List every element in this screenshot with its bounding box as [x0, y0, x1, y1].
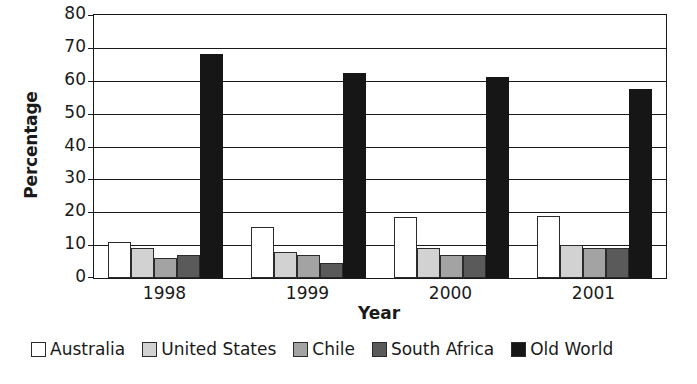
bar — [297, 255, 320, 278]
bar — [606, 248, 629, 278]
y-axis-tick-labels: 80706050403020100 — [28, 0, 86, 290]
legend-label: Old World — [530, 341, 613, 358]
legend-swatch-icon — [142, 342, 157, 357]
x-axis-tick-label: 2001 — [554, 282, 634, 304]
plot-area — [93, 14, 667, 279]
legend: AustraliaUnited StatesChileSouth AfricaO… — [31, 341, 630, 358]
bar — [108, 242, 131, 278]
x-axis-tick-label: 2000 — [411, 282, 491, 304]
bar — [320, 263, 343, 278]
legend-item: Old World — [511, 341, 613, 358]
y-axis-tick-label: 50 — [28, 104, 86, 121]
bar — [177, 255, 200, 278]
bars-layer — [94, 15, 666, 278]
legend-item: Chile — [293, 341, 355, 358]
legend-swatch-icon — [511, 342, 526, 357]
bar — [537, 216, 560, 278]
bar — [394, 217, 417, 278]
bar — [560, 245, 583, 278]
legend-item: South Africa — [372, 341, 494, 358]
legend-label: United States — [161, 341, 276, 358]
legend-label: Chile — [312, 341, 355, 358]
bar — [440, 255, 463, 278]
y-axis-tick-label: 70 — [28, 38, 86, 55]
legend-item: Australia — [31, 341, 125, 358]
legend-label: Australia — [50, 341, 125, 358]
bar — [343, 73, 366, 278]
y-axis-tick-label: 30 — [28, 169, 86, 186]
bar — [154, 258, 177, 278]
bar — [274, 252, 297, 278]
bar-chart-figure: Percentage 80706050403020100 19981999200… — [0, 0, 697, 384]
bar — [463, 255, 486, 278]
legend-label: South Africa — [391, 341, 494, 358]
bar — [131, 248, 154, 278]
y-axis-tick-label: 20 — [28, 202, 86, 219]
y-axis-tick-label: 80 — [28, 5, 86, 22]
bar — [629, 89, 652, 278]
bar — [251, 227, 274, 278]
legend-swatch-icon — [372, 342, 387, 357]
legend-swatch-icon — [293, 342, 308, 357]
y-axis-tick-label: 0 — [28, 268, 86, 285]
bar — [417, 248, 440, 278]
x-axis-tick-label: 1998 — [125, 282, 205, 304]
legend-item: United States — [142, 341, 276, 358]
legend-swatch-icon — [31, 342, 46, 357]
y-axis-tick-label: 60 — [28, 71, 86, 88]
bar — [486, 77, 509, 278]
y-axis-tick-label: 10 — [28, 235, 86, 252]
bar — [583, 248, 606, 278]
y-axis-tick-label: 40 — [28, 137, 86, 154]
bar — [200, 54, 223, 278]
x-axis-title: Year — [93, 303, 665, 323]
x-axis-tick-label: 1999 — [268, 282, 348, 304]
